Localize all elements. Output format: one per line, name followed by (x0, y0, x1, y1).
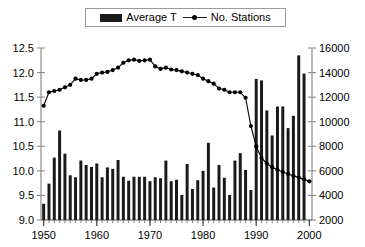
line-marker (143, 58, 147, 62)
y2-axis-tick-label: 12000 (319, 91, 350, 103)
y2-axis-tick-label: 8000 (319, 140, 343, 152)
line-marker (254, 144, 258, 148)
line-marker (217, 86, 221, 90)
bar (260, 80, 263, 220)
bar (223, 178, 226, 220)
line-marker (148, 58, 152, 62)
bar (106, 167, 109, 220)
bar (239, 153, 242, 220)
bar (244, 170, 247, 220)
bar (180, 195, 183, 220)
line-marker (158, 67, 162, 71)
line-marker (164, 66, 168, 70)
line-marker (281, 170, 285, 174)
line-marker (84, 78, 88, 82)
bar (85, 165, 88, 220)
bar (42, 204, 45, 220)
bar (117, 160, 120, 220)
bar (74, 177, 77, 220)
x-axis-tick-label: 1980 (191, 229, 215, 241)
line-marker (206, 79, 210, 83)
y-axis-tick-label: 11.0 (13, 116, 34, 128)
line-marker (47, 90, 51, 94)
bar (101, 177, 104, 220)
bar (186, 164, 189, 220)
y-axis-tick-label: 9.0 (19, 214, 34, 226)
bar (233, 161, 236, 220)
line-marker (89, 77, 93, 81)
line-marker (265, 161, 269, 165)
bar (218, 165, 221, 220)
line-marker (185, 70, 189, 74)
x-axis-tick-label: 1960 (85, 229, 109, 241)
line-marker (63, 85, 67, 89)
bar (164, 161, 167, 220)
x-axis-tick-label: 1970 (138, 229, 162, 241)
line-marker (270, 165, 274, 169)
line-marker (68, 83, 72, 87)
bar (228, 195, 231, 220)
bar (63, 154, 66, 220)
y2-axis-tick-label: 6000 (319, 165, 343, 177)
bar (276, 106, 279, 220)
bar (303, 74, 306, 220)
line-marker (249, 124, 253, 128)
line-marker (42, 104, 46, 108)
line-marker (169, 67, 173, 71)
line-marker (52, 89, 56, 93)
bar (191, 189, 194, 220)
bar (175, 180, 178, 220)
line-marker (243, 96, 247, 100)
bar (292, 116, 295, 220)
line-marker (291, 174, 295, 178)
line-marker (233, 90, 237, 94)
line-marker (307, 179, 311, 183)
y-axis-tick-label: 9.5 (19, 189, 34, 201)
line-marker (105, 70, 109, 74)
y2-axis-tick-label: 16000 (319, 42, 350, 54)
line-marker (275, 168, 279, 172)
bar (170, 181, 173, 220)
y-axis-tick-label: 10.0 (13, 165, 34, 177)
y2-axis-tick-label: 10000 (319, 116, 350, 128)
bar (53, 158, 56, 220)
bar (249, 190, 252, 220)
bar (79, 161, 82, 220)
bar (95, 163, 98, 220)
x-axis-tick-label: 1990 (244, 229, 268, 241)
bar (154, 177, 157, 220)
line-marker (228, 90, 232, 94)
chart-plot: 9.09.510.010.511.011.512.012.52000400060… (0, 0, 365, 247)
bar (196, 180, 199, 220)
y-axis-tick-label: 12.0 (13, 67, 34, 79)
line-marker (302, 177, 306, 181)
y2-axis-tick-label: 2000 (319, 214, 343, 226)
bar (148, 181, 151, 220)
y2-axis-tick-label: 4000 (319, 189, 343, 201)
x-axis-tick-label: 1950 (31, 229, 55, 241)
y-axis-tick-label: 11.5 (13, 91, 34, 103)
bar (90, 167, 93, 220)
bar (297, 55, 300, 220)
line-marker (259, 156, 263, 160)
x-axis-tick-label: 2000 (297, 229, 321, 241)
bar (212, 188, 215, 220)
y-axis-tick-label: 10.5 (13, 140, 34, 152)
bar (47, 184, 50, 220)
line-marker (190, 72, 194, 76)
line-marker (100, 70, 104, 74)
line-marker (238, 90, 242, 94)
line-marker (137, 59, 141, 63)
line-marker (153, 64, 157, 68)
bar (58, 131, 61, 220)
bar (133, 177, 136, 220)
line-marker (79, 78, 83, 82)
bar (143, 177, 146, 220)
line-marker (58, 88, 62, 92)
line-marker (132, 58, 136, 62)
line-marker (95, 72, 99, 76)
bar (271, 135, 274, 220)
line-marker (297, 176, 301, 180)
bar (207, 143, 210, 220)
line-marker (174, 68, 178, 72)
